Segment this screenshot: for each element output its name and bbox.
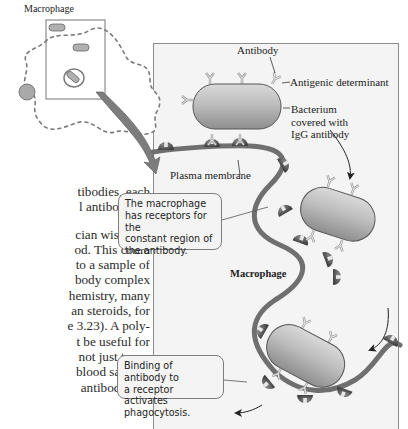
- inset-title: Macrophage: [24, 3, 74, 14]
- label-macrophage: Macrophage: [230, 268, 286, 279]
- callout-receptors: The macrophage has receptors for the con…: [118, 193, 222, 250]
- macrophage-inset: [19, 20, 160, 174]
- label-bacterium: Bacterium covered with IgG antibody: [291, 103, 349, 141]
- label-plasma-membrane: Plasma membrane: [170, 169, 251, 181]
- flow-arrow-icon: [370, 308, 388, 350]
- bacterium-1: [182, 72, 281, 145]
- flow-arrow-icon: [236, 405, 262, 413]
- label-antigenic-determinant: Antigenic determinant: [290, 76, 389, 88]
- callout-phagocytosis: Binding of antibody to a receptor activa…: [117, 355, 224, 399]
- label-antibody: Antibody: [237, 44, 279, 56]
